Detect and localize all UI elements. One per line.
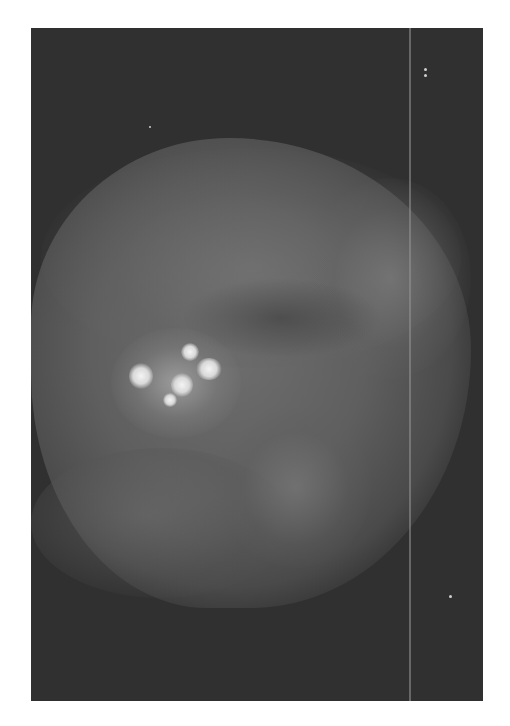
fluorescent-spot: [196, 358, 222, 380]
fluorescent-spot: [171, 373, 193, 397]
bright-speck: [424, 68, 427, 71]
bright-speck: [149, 126, 151, 128]
tissue-lower-mid-lobe: [221, 408, 371, 568]
fluorescent-spot: [181, 343, 199, 361]
vertical-line-artifact: [409, 28, 411, 701]
bright-speck: [449, 595, 452, 598]
fluorescent-spot: [163, 393, 177, 407]
micrograph-image: [31, 28, 483, 701]
bright-speck: [424, 74, 427, 77]
fluorescent-spot: [129, 363, 153, 389]
